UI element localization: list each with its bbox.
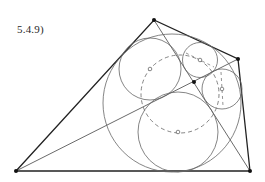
dashed-circle [141,55,219,133]
center-marker-bottom [176,130,180,134]
vertex-a [14,169,18,173]
geometry-diagram [0,0,265,182]
center-marker-top-left [148,67,152,71]
center-marker-top-right [198,58,202,62]
vertex-c [236,57,240,61]
vertex-d [248,169,252,173]
diagonal-ac [16,59,238,171]
incircle [103,34,241,172]
diagonal-intersection-point [192,80,196,84]
vertex-b [152,18,156,22]
center-marker-right [220,87,224,91]
